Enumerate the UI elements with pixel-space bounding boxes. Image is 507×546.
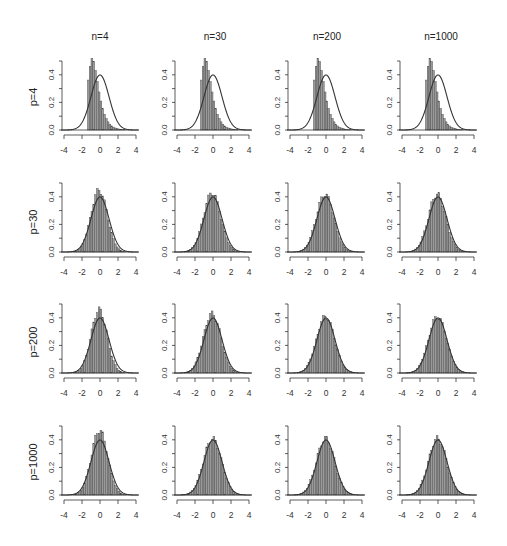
histogram-bar	[78, 492, 80, 495]
y-axis: 0.00.20.4	[385, 304, 400, 379]
histogram-bar	[433, 446, 435, 495]
x-tick-label: 0	[436, 267, 441, 277]
x-axis: -4-2024	[60, 257, 138, 277]
panel-p=4-n=30: 0.00.20.4-4-2024	[160, 58, 252, 155]
x-tick-label: 4	[134, 145, 139, 155]
histogram-bar	[330, 449, 332, 495]
x-tick-label: 0	[98, 510, 103, 520]
histogram-bar	[218, 119, 220, 130]
y-tick-label: 0.2	[160, 461, 169, 473]
x-tick-label: 0	[436, 388, 441, 398]
y-tick-label: 0.4	[160, 69, 169, 81]
histogram-bar	[96, 81, 98, 130]
y-tick-label: 0.2	[160, 96, 169, 108]
histogram-bar	[226, 127, 228, 130]
histogram-bar	[231, 248, 233, 252]
histogram-bar	[211, 439, 213, 495]
x-tick-label: -4	[173, 388, 181, 398]
histogram-bar	[109, 348, 111, 373]
histogram-bar	[335, 345, 337, 373]
y-tick-label: 0.0	[273, 124, 282, 136]
x-tick-label: 2	[454, 267, 459, 277]
histogram-bar	[445, 217, 447, 253]
histogram-bar	[222, 225, 224, 252]
histogram-bar	[224, 352, 226, 373]
x-tick-label: 0	[211, 388, 216, 398]
histogram-bar	[98, 190, 100, 252]
panel-p=1000-n=30: 0.00.20.4-4-2024	[160, 426, 252, 520]
y-axis: 0.00.20.4	[47, 183, 62, 258]
y-tick-label: 0.0	[160, 489, 169, 501]
histogram-bar	[118, 491, 120, 495]
histogram-bar	[438, 192, 440, 252]
histogram-bar	[322, 197, 324, 252]
histogram-bar	[319, 61, 321, 130]
histogram-bar	[226, 238, 228, 252]
histogram-bar	[116, 489, 118, 495]
histogram-bar	[438, 101, 440, 130]
y-tick-label: 0.4	[385, 312, 394, 324]
histogram-bar	[443, 331, 445, 373]
x-tick-label: -4	[398, 145, 406, 155]
histogram-bar	[442, 447, 444, 495]
panel-p=1000-n=200: 0.00.20.4-4-2024	[273, 426, 365, 520]
y-tick-label: 0.4	[47, 312, 56, 324]
x-tick-label: -4	[286, 510, 294, 520]
x-tick-label: 4	[247, 388, 252, 398]
x-tick-label: -2	[78, 145, 86, 155]
histogram-bar	[331, 213, 333, 252]
histogram-bar	[436, 92, 438, 130]
histogram-bar	[220, 122, 222, 130]
y-tick-label: 0.0	[385, 124, 394, 136]
histogram-bar	[208, 444, 210, 495]
histogram-bar	[213, 101, 215, 130]
y-tick-label: 0.0	[385, 246, 394, 258]
histogram-bar	[434, 317, 436, 373]
histogram-bar	[107, 458, 109, 495]
x-tick-label: 0	[324, 510, 329, 520]
panel-p=4-n=4: 0.00.20.4-4-2024	[47, 58, 139, 155]
x-tick-label: 4	[247, 267, 252, 277]
histogram-bar	[105, 451, 107, 495]
x-tick-label: -2	[191, 510, 199, 520]
histogram-bar	[339, 127, 341, 130]
histogram-bar	[447, 344, 449, 373]
histogram-bar	[442, 206, 444, 252]
y-tick-label: 0.2	[385, 218, 394, 230]
x-tick-label: 2	[229, 510, 234, 520]
histogram-bar	[337, 473, 339, 495]
histogram-bar	[449, 473, 451, 495]
histogram-bar	[217, 448, 219, 495]
histogram-bar	[335, 124, 337, 130]
y-tick-label: 0.4	[160, 191, 169, 203]
y-tick-label: 0.4	[47, 434, 56, 446]
histogram-bar	[443, 212, 445, 252]
histogram-bar	[118, 249, 120, 252]
y-tick-label: 0.2	[273, 96, 282, 108]
y-tick-label: 0.4	[385, 191, 394, 203]
x-tick-label: 2	[342, 267, 347, 277]
histogram-bar	[440, 108, 442, 130]
x-tick-label: 4	[472, 510, 477, 520]
y-axis: 0.00.20.4	[160, 183, 175, 258]
histogram-bar	[436, 436, 438, 495]
histogram-bar	[431, 450, 433, 495]
histogram-bar	[342, 245, 344, 252]
histogram-bar	[440, 198, 442, 252]
y-tick-label: 0.0	[273, 489, 282, 501]
histogram-bar	[227, 362, 229, 373]
x-tick-label: 0	[324, 145, 329, 155]
histogram-bar	[80, 490, 82, 495]
panel-p=200-n=200: 0.00.20.4-4-2024	[273, 304, 365, 398]
histogram-bar	[451, 238, 453, 252]
x-tick-label: -2	[304, 510, 312, 520]
histogram-bar	[324, 316, 326, 373]
histogram-bar	[229, 246, 231, 252]
histogram-bar	[111, 356, 113, 373]
x-tick-label: 2	[229, 388, 234, 398]
histogram-bar	[431, 328, 433, 373]
histogram-bar	[342, 365, 344, 373]
y-axis: 0.00.20.4	[47, 304, 62, 379]
x-tick-label: 2	[229, 267, 234, 277]
histogram-bar	[222, 347, 224, 373]
